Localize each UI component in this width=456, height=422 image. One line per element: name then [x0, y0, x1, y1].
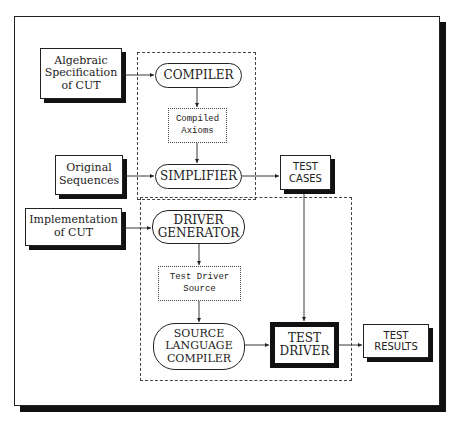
simplifier-node: SIMPLIFIER [155, 164, 242, 189]
test-driver-source-node: Test Driver Source [158, 266, 241, 301]
test-cases-box: TEST CASES [280, 155, 331, 190]
driver-generator-node: DRIVER GENERATOR [152, 210, 245, 244]
implementation-of-cut-box: Implementation of CUT [25, 208, 122, 246]
compiled-axioms-node: Compiled Axioms [168, 108, 227, 143]
original-sequences-box: Original Sequences [55, 155, 123, 195]
test-results-box: TEST RESULTS [363, 324, 429, 358]
compiler-node: COMPILER [155, 63, 242, 88]
algebraic-specification-box: Algebraic Specification of CUT [40, 48, 122, 99]
test-driver-box: TEST DRIVER [270, 322, 339, 368]
source-language-compiler-node: SOURCE LANGUAGE COMPILER [153, 323, 245, 370]
